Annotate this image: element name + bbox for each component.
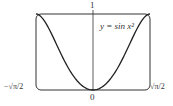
curve-label-text: y = sin x²: [100, 21, 134, 31]
x-tick-0: 0: [90, 93, 95, 102]
plot-area: [0, 0, 173, 106]
curve-label: y = sin x²: [100, 22, 134, 31]
x-tick-left: −√π/2: [4, 82, 23, 91]
y-tick-1: 1: [90, 1, 95, 10]
x-tick-right: √π/2: [150, 82, 165, 91]
